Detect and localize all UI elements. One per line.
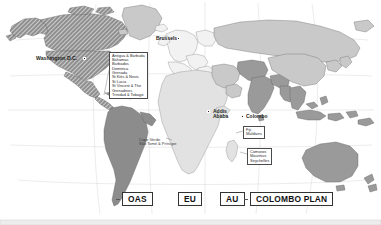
legend-label-oas[interactable]: OAS (122, 192, 153, 206)
city-label-colombo: Colombo (246, 114, 268, 119)
legend-item-eu[interactable]: EU (172, 186, 202, 212)
callout-indian-ocean-au-islands: Comoros Mauritius Seychelles (247, 148, 272, 165)
callout-caribbean-item: Trinidad & Tobago (112, 93, 145, 97)
world-map: Antigua & Barbuda Bahamas Barbados Domin… (0, 0, 381, 225)
legend-label-eu[interactable]: EU (178, 192, 202, 206)
city-name-colombo: Colombo (246, 114, 268, 119)
city-label-addis-ababa: Addis Ababa (213, 109, 228, 120)
capital-marker-addis-ababa (207, 110, 210, 113)
capital-marker-washington-dc (83, 57, 86, 60)
region-antarctica (0, 220, 381, 225)
legend-item-oas[interactable]: OAS (116, 186, 153, 212)
legend-leader-oas (116, 199, 120, 200)
legend-leader-colombo-plan (244, 199, 248, 200)
legend-label-colombo-plan[interactable]: COLOMBO PLAN (250, 192, 333, 206)
city-label-washington-dc: Washington D.C. (36, 56, 77, 62)
city-label-brussels: Brussels (156, 36, 177, 41)
indian-ocean-island-item: Seychelles (250, 159, 269, 163)
city-name-brussels: Brussels (156, 36, 177, 41)
callout-colombo-plan-islands: Fiji Maldives (243, 126, 265, 139)
legend-item-colombo-plan[interactable]: COLOMBO PLAN (244, 186, 333, 212)
capital-marker-colombo (241, 115, 244, 118)
city-name-washington-dc: Washington D.C. (36, 56, 77, 62)
capital-marker-brussels (177, 37, 180, 40)
legend-item-au[interactable]: AU (214, 186, 245, 212)
legend-label-au[interactable]: AU (220, 192, 245, 206)
callout-caribbean-oas-states: Antigua & Barbuda Bahamas Barbados Domin… (109, 52, 148, 100)
label-atlantic-au-islands: Cape Verde São Tomé & Príncipe (139, 138, 177, 147)
colombo-island-item: Maldives (246, 132, 262, 136)
city-name-addis-ababa-line2: Ababa (213, 114, 228, 119)
legend: OAS EU AU COLOMBO PLAN (0, 186, 381, 212)
atlantic-island-item: São Tomé & Príncipe (139, 142, 177, 147)
region-iceland (118, 29, 128, 35)
